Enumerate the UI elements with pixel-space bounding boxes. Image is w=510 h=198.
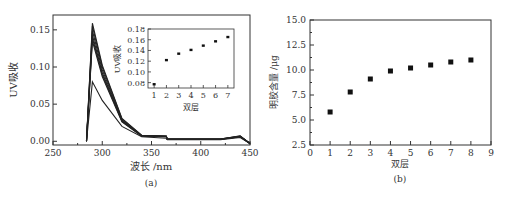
x-tick-label: 300 [94,148,111,158]
inset-data-point [214,40,217,42]
panel-b-chart: 0123456789 2.55.07.510.012.515.0 双层 明胶含量… [268,15,494,184]
x-tick-label: 3 [367,148,373,158]
inset-x-tick-label: 3 [176,91,181,100]
inset-y-ticks: 0.080.100.120.140.160.18 [127,25,151,88]
data-point [468,58,473,63]
inset-data-point [190,49,193,51]
inset-y-label: UV吸收 [112,45,122,74]
inset-x-tick-label: 2 [164,91,169,100]
inset-x-tick-label: 7 [225,91,230,100]
x-tick-label: 9 [488,148,494,158]
panel-a-x-ticks: 250300350400450 [44,141,258,158]
y-tick-label: 0.05 [30,99,50,109]
data-point [388,69,393,74]
figure: 250300350400450 0.000.050.100.15 波长 /nm … [0,0,510,198]
panel-a-inset-chart: 1234567 0.080.100.120.140.160.18 双层 UV吸收 [112,25,234,112]
y-tick-label: 5.0 [292,115,307,125]
data-point [348,90,353,95]
inset-plot-frame [148,29,234,88]
inset-y-tick-label: 0.14 [127,46,145,55]
inset-data-point [202,44,205,46]
inset-y-tick-label: 0.12 [127,57,145,66]
inset-y-tick-label: 0.10 [127,68,145,77]
panel-b-caption: (b) [394,174,407,184]
y-tick-label: 15.0 [286,15,306,25]
inset-data-point [226,36,229,38]
x-tick-label: 450 [241,148,258,158]
inset-x-tick-label: 1 [152,91,157,100]
y-tick-label: 2.5 [292,140,307,150]
y-tick-label: 0.10 [30,62,50,72]
inset-y-tick-label: 0.16 [127,36,145,45]
data-point [408,66,413,71]
y-tick-label: 0.00 [30,136,50,146]
x-tick-label: 2 [347,148,353,158]
x-tick-label: 8 [468,148,474,158]
inset-x-tick-label: 6 [213,91,218,100]
y-tick-label: 10.0 [286,65,306,75]
inset-data-point [177,52,180,54]
panel-a-chart: 250300350400450 0.000.050.100.15 波长 /nm … [7,15,259,188]
x-tick-label: 7 [448,148,454,158]
inset-x-tick-label: 5 [201,91,206,100]
y-tick-label: 0.15 [30,25,50,35]
x-tick-label: 0 [307,148,313,158]
x-tick-label: 6 [428,148,434,158]
inset-y-tick-label: 0.08 [127,79,145,88]
y-tick-label: 7.5 [292,90,307,100]
x-tick-label: 5 [408,148,414,158]
panel-b-x-label: 双层 [391,159,409,169]
x-tick-label: 350 [143,148,160,158]
panel-b-data-points [328,58,474,115]
panel-a-x-label: 波长 /nm [130,160,173,172]
x-tick-label: 4 [388,148,394,158]
panel-b-y-label: 明胶含量 /μg [268,55,279,109]
y-tick-label: 12.5 [286,40,306,50]
inset-y-tick-label: 0.18 [127,25,145,34]
x-tick-label: 400 [192,148,209,158]
panel-a-y-label: UV吸收 [7,62,19,98]
inset-x-tick-label: 4 [188,91,193,100]
panel-b-plot-frame [310,20,491,145]
x-tick-label: 1 [327,148,333,158]
x-tick-label: 250 [44,148,61,158]
inset-x-label: 双层 [183,103,199,112]
panel-b-x-ticks: 0123456789 [307,141,494,158]
panel-a-caption: (a) [145,178,157,188]
inset-data-point [165,59,168,61]
data-point [448,60,453,65]
data-point [368,77,373,82]
data-point [428,63,433,68]
data-point [328,110,333,115]
inset-data-point [153,83,156,85]
